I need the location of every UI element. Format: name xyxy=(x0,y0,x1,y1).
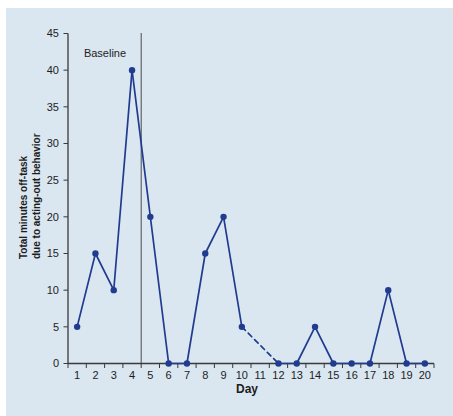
figure: 0510152025303540451234567891011121314151… xyxy=(0,0,453,416)
x-axis-tick-label: 10 xyxy=(236,369,248,381)
data-point xyxy=(422,360,428,366)
data-point xyxy=(239,324,245,330)
y-axis-tick-label: 35 xyxy=(47,101,59,113)
y-axis-tick-label: 5 xyxy=(53,321,59,333)
x-axis-tick-label: 1 xyxy=(74,369,80,381)
y-axis-tick-label: 40 xyxy=(47,64,59,76)
data-point xyxy=(330,360,336,366)
x-axis-tick-label: 9 xyxy=(220,369,226,381)
y-axis-tick-label: 15 xyxy=(47,247,59,259)
data-point xyxy=(403,360,409,366)
y-axis-tick-label: 10 xyxy=(47,284,59,296)
y-axis-tick-label: 25 xyxy=(47,174,59,186)
y-axis-tick-label: 45 xyxy=(47,27,59,39)
data-point xyxy=(348,360,354,366)
data-point xyxy=(367,360,373,366)
data-point xyxy=(74,324,80,330)
y-axis-tick-label: 20 xyxy=(47,211,59,223)
x-axis-tick-label: 11 xyxy=(254,369,265,381)
x-axis-tick-label: 3 xyxy=(111,369,117,381)
x-axis-tick-label: 14 xyxy=(309,369,321,381)
data-point xyxy=(165,360,171,366)
line-chart: 0510152025303540451234567891011121314151… xyxy=(0,0,453,416)
data-point xyxy=(312,324,318,330)
data-point xyxy=(184,360,190,366)
x-axis-tick-label: 19 xyxy=(400,369,412,381)
data-point xyxy=(385,287,391,293)
x-axis-tick-label: 6 xyxy=(166,369,172,381)
x-axis-title: Day xyxy=(236,382,258,396)
data-point xyxy=(92,250,98,256)
data-point xyxy=(220,214,226,220)
x-axis-tick-label: 2 xyxy=(92,369,98,381)
y-axis-title-line1: Total minutes off-task xyxy=(18,155,29,259)
x-axis-tick-label: 8 xyxy=(202,369,208,381)
x-axis-tick-label: 4 xyxy=(129,369,135,381)
data-point xyxy=(275,360,281,366)
x-axis-tick-label: 16 xyxy=(346,369,358,381)
y-axis-tick-label: 30 xyxy=(47,137,59,149)
data-point xyxy=(129,67,135,73)
x-axis-tick-label: 20 xyxy=(419,369,431,381)
y-axis-tick-label: 0 xyxy=(53,357,59,369)
data-point xyxy=(202,250,208,256)
x-axis-tick-label: 17 xyxy=(364,369,376,381)
data-point xyxy=(147,214,153,220)
x-axis-tick-label: 12 xyxy=(272,369,284,381)
data-point xyxy=(294,360,300,366)
chart-panel xyxy=(6,8,453,416)
x-axis-tick-label: 13 xyxy=(291,369,303,381)
x-axis-tick-label: 18 xyxy=(382,369,394,381)
phase-label: Baseline xyxy=(84,47,126,59)
y-axis-title-line2: due to acting-out behavior xyxy=(31,133,42,259)
x-axis-tick-label: 5 xyxy=(147,369,153,381)
data-point xyxy=(111,287,117,293)
x-axis-tick-label: 7 xyxy=(184,369,190,381)
x-axis-tick-label: 15 xyxy=(327,369,339,381)
